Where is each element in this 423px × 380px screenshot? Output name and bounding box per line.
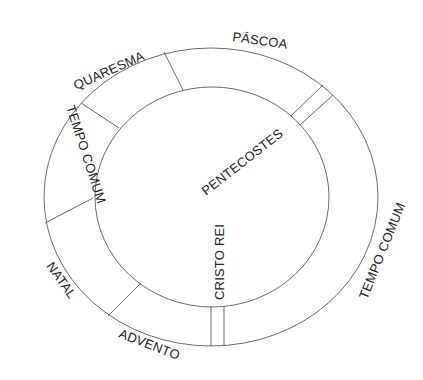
label-pentecostes: PENTECOSTES [199, 126, 286, 199]
divider-pascoa-pentecostes-b [300, 95, 333, 125]
divider-tempocomum-quaresma [81, 103, 119, 128]
divider-quaresma-pascoa [164, 52, 183, 90]
label-advento: ADVENTO [117, 326, 182, 363]
label-tempo-comum-right: TEMPO COMUM [356, 200, 408, 301]
liturgical-year-diagram: PÁSCOA QUARESMA TEMPO COMUM NATAL ADVENT… [0, 0, 423, 380]
label-cristo-rei: CRISTO REI [212, 224, 227, 300]
divider-tempocomum-natal [45, 198, 93, 223]
label-tempo-comum-left: TEMPO COMUM [63, 103, 109, 205]
label-pascoa: PÁSCOA [232, 29, 289, 52]
label-natal: NATAL [44, 259, 80, 301]
label-quaresma: QUARESMA [71, 48, 147, 93]
divider-natal-advento [108, 284, 140, 316]
divider-pascoa-pentecostes-a [291, 85, 323, 116]
